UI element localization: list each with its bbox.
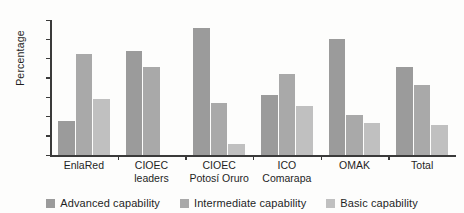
legend-label: Intermediate capability xyxy=(194,197,306,209)
bar-group xyxy=(396,20,448,155)
bar-group xyxy=(126,20,178,155)
y-tick-30 xyxy=(46,97,51,98)
bar-advanced xyxy=(126,51,143,155)
legend-swatch-icon xyxy=(326,199,335,208)
legend-item[interactable]: Basic capability xyxy=(326,197,417,209)
bar-basic xyxy=(296,106,313,155)
x-category-label: Total xyxy=(382,159,462,172)
legend-label: Basic capability xyxy=(340,197,417,209)
bar-intermediate xyxy=(279,74,296,155)
y-tick-0 xyxy=(46,155,51,156)
legend-item[interactable]: Advanced capability xyxy=(46,197,160,209)
legend-swatch-icon xyxy=(46,199,55,208)
bar-group xyxy=(193,20,245,155)
bar-basic xyxy=(364,123,381,155)
bar-advanced xyxy=(396,67,413,155)
legend-swatch-icon xyxy=(180,199,189,208)
y-tick-10 xyxy=(46,135,51,136)
x-axis-labels: EnlaRedCIOEC leadersCIOEC Potosí OruroIC… xyxy=(50,159,456,191)
bar-advanced xyxy=(58,121,75,155)
plot-area: 010203040506070 xyxy=(50,20,456,155)
bar-advanced xyxy=(193,28,210,155)
y-axis-title: Percentage xyxy=(14,8,26,108)
bar-chart: Percentage 010203040506070 EnlaRedCIOEC … xyxy=(0,0,464,213)
bar-group xyxy=(58,20,110,155)
y-tick-20 xyxy=(46,116,51,117)
y-tick-70 xyxy=(46,20,51,21)
bar-basic xyxy=(93,99,110,155)
y-tick-60 xyxy=(46,39,51,40)
legend-label: Advanced capability xyxy=(60,197,160,209)
bar-intermediate xyxy=(143,67,160,155)
legend-item[interactable]: Intermediate capability xyxy=(180,197,306,209)
bar-intermediate xyxy=(414,85,431,155)
bar-advanced xyxy=(329,39,346,155)
bar-group xyxy=(329,20,381,155)
bar-advanced xyxy=(261,95,278,155)
bar-group xyxy=(261,20,313,155)
bar-basic xyxy=(431,125,448,155)
y-tick-40 xyxy=(46,77,51,78)
y-tick-50 xyxy=(46,58,51,59)
chart-legend: Advanced capabilityIntermediate capabili… xyxy=(0,195,464,211)
bar-basic xyxy=(228,144,245,155)
bar-intermediate xyxy=(346,115,363,156)
bar-intermediate xyxy=(76,54,93,155)
bar-intermediate xyxy=(211,103,228,155)
